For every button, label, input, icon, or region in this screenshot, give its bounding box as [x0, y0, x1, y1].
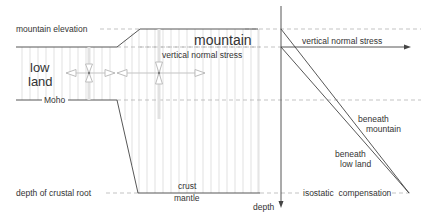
depth-of-crustal-root-label: depth of crustal root [16, 188, 92, 198]
mountain-elevation-label: mountain elevation [16, 24, 88, 34]
moho-label: Moho [44, 95, 66, 105]
profile-beneath-low-land [281, 47, 409, 193]
mantle-label: mantle [174, 193, 200, 203]
arrow-right-icon [404, 45, 411, 50]
depth-axis-label: depth [253, 202, 275, 212]
dashed-reference-lines [100, 29, 421, 193]
beneath-mountain-label-2: mountain [366, 124, 401, 134]
beneath-low-land-label-2: low land [340, 159, 371, 169]
low-land-label-2: land [28, 74, 53, 89]
depth-axis [279, 6, 284, 208]
crust-label: crust [178, 181, 197, 191]
stress-cross-low-land [66, 47, 115, 100]
beneath-low-land-label-1: beneath [335, 149, 366, 159]
arrow-down-icon [279, 201, 284, 208]
mountain-label: mountain [194, 32, 252, 48]
isostatic-compensation-label: isostatic compensation [303, 188, 392, 198]
vertical-normal-stress-inner-label: vertical normal stress [162, 50, 242, 60]
low-land-label-1: low [30, 60, 50, 75]
stress-cross-mountain [117, 29, 205, 119]
vertical-normal-stress-axis-label: vertical normal stress [302, 36, 382, 46]
isostasy-diagram: mountain elevation mountain vertical nor… [0, 0, 421, 221]
beneath-mountain-label-1: beneath [358, 114, 389, 124]
